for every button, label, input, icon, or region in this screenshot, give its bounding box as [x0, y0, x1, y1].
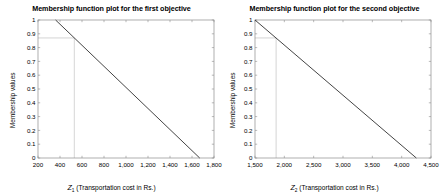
x-axis-label-second: Z2 (Transportation cost in Rs.) — [223, 183, 446, 193]
plot-area-first: 2004006008001,0001,2001,4001,6001,80000.… — [0, 0, 223, 195]
y-axis-label-second: Membership values — [229, 73, 236, 128]
y-tick-label: 0.3 — [244, 113, 253, 120]
x-axis-rest-second: (Transportation cost in Rs.) — [297, 184, 378, 191]
y-tick-label: 0.4 — [27, 99, 36, 106]
x-tick-label: 2,000 — [277, 161, 293, 168]
y-axis-label-first: Membership values — [9, 73, 16, 128]
y-tick-label: 0.9 — [27, 30, 36, 37]
x-tick-label: 1,800 — [206, 161, 222, 168]
data-line-membership — [56, 20, 200, 158]
y-tick-label: 0.5 — [27, 85, 36, 92]
y-tick-label: 0.6 — [244, 71, 253, 78]
data-line-membership — [255, 20, 416, 158]
y-tick-label: 0.5 — [244, 85, 253, 92]
x-tick-label: 200 — [33, 161, 44, 168]
x-tick-label: 4,500 — [423, 161, 439, 168]
axes-frame — [255, 20, 431, 158]
chart-panel-first-objective: Membership function plot for the first o… — [0, 0, 223, 195]
y-tick-label: 0.2 — [27, 127, 36, 134]
x-tick-label: 1,600 — [184, 161, 200, 168]
x-tick-label: 1,400 — [162, 161, 178, 168]
x-tick-label: 2,500 — [306, 161, 322, 168]
y-tick-label: 0.8 — [244, 44, 253, 51]
x-tick-label: 3,500 — [365, 161, 381, 168]
y-tick-label: 0.1 — [27, 140, 36, 147]
axes-frame — [38, 20, 214, 158]
x-tick-label: 800 — [99, 161, 110, 168]
chart-panel-second-objective: Membership function plot for the second … — [223, 0, 446, 195]
x-axis-rest-first: (Transportation cost in Rs.) — [74, 184, 155, 191]
x-tick-label: 3,000 — [335, 161, 351, 168]
y-tick-label: 0.7 — [244, 58, 253, 65]
x-axis-label-first: Z1 (Transportation cost in Rs.) — [0, 183, 223, 193]
y-tick-label: 0.4 — [244, 99, 253, 106]
y-tick-label: 0.7 — [27, 58, 36, 65]
y-tick-label: 0 — [32, 154, 36, 161]
plot-area-second: 1,5002,0002,5003,0003,5004,0004,50000.10… — [223, 0, 446, 195]
y-tick-label: 1 — [32, 16, 36, 23]
x-tick-label: 1,000 — [118, 161, 134, 168]
y-tick-label: 0.9 — [244, 30, 253, 37]
y-tick-label: 0.3 — [27, 113, 36, 120]
y-tick-label: 0.2 — [244, 127, 253, 134]
y-tick-label: 0.6 — [27, 71, 36, 78]
y-tick-label: 1 — [249, 16, 253, 23]
y-tick-label: 0.8 — [27, 44, 36, 51]
y-tick-label: 0.1 — [244, 140, 253, 147]
x-tick-label: 1,200 — [140, 161, 156, 168]
x-tick-label: 400 — [55, 161, 66, 168]
y-tick-label: 0 — [249, 154, 253, 161]
membership-function-figure: Membership function plot for the first o… — [0, 0, 446, 195]
x-tick-label: 1,500 — [247, 161, 263, 168]
x-tick-label: 4,000 — [394, 161, 410, 168]
x-tick-label: 600 — [77, 161, 88, 168]
